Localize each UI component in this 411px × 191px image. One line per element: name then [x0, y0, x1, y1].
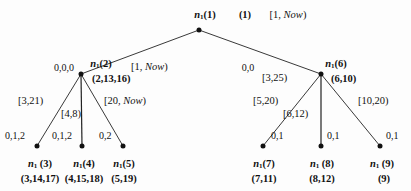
edge-interval-n4: [4,8): [61, 109, 81, 120]
edge-interval-n5: [20, Now): [104, 96, 146, 107]
node-dot-root[interactable]: [197, 28, 202, 33]
node-label-n3: n1 (3): [28, 159, 52, 170]
edge-digits-n4: 0,1,2: [52, 131, 72, 141]
node-label-n6: n1(6): [325, 59, 347, 70]
node-tuple-n2: (2,13,16): [92, 74, 131, 85]
node-dot-n8[interactable]: [319, 144, 324, 149]
edge-digits-n7: 0,1: [271, 131, 284, 141]
node-tuple-n9: (9): [378, 174, 390, 185]
node-label-n2: n1(2): [90, 59, 112, 70]
node-dot-n6[interactable]: [319, 72, 324, 77]
node-dot-n4[interactable]: [80, 144, 85, 149]
node-label-n8: n1 (8): [310, 159, 334, 170]
edge-digits-n9: 0,1: [386, 131, 399, 141]
node-tuple-n4: (4,15,18): [65, 174, 104, 185]
edge-interval-root-n2: [1, Now): [131, 62, 168, 73]
node-dot-n2[interactable]: [79, 72, 84, 77]
node-label-n5: n1(5): [113, 159, 135, 170]
tree-edges: [0, 0, 411, 191]
root-node-label: n1(1): [194, 10, 216, 21]
edge-digits-n3: 0,1,2: [5, 131, 25, 141]
node-tuple-n3: (3,14,17): [21, 174, 60, 185]
tree-diagram-figure: n1(1) (1) [1, Now) 0,0,0 n1(2) [1, Now) …: [0, 0, 411, 191]
edge-interval-n3: [3,21): [18, 96, 43, 107]
node-dot-n5[interactable]: [121, 144, 126, 149]
node-tuple-n8: (8,12): [309, 174, 334, 185]
edge-interval-n7: [5,20): [253, 96, 278, 107]
node-dot-n7[interactable]: [261, 144, 266, 149]
node-label-n7: n1(7): [253, 159, 275, 170]
node-label-n4: n1(4): [73, 159, 95, 170]
edge-interval-n8: [6,12): [283, 109, 308, 120]
root-tuple-label: (1): [239, 10, 251, 21]
edge-digits-n8: 0,1: [327, 131, 340, 141]
node-label-n9: n1 (9): [370, 159, 394, 170]
node-tuple-n5: (5,19): [111, 174, 136, 185]
edge-digits-n2: 0,0,0: [54, 63, 74, 73]
node-dot-n3[interactable]: [35, 144, 40, 149]
edge-digits-n6: 0,0: [242, 63, 255, 73]
node-tuple-n7: (7,11): [252, 174, 277, 185]
node-dot-n9[interactable]: [378, 144, 383, 149]
root-interval-label: [1, Now): [270, 10, 307, 21]
edge-interval-root-n6: [3,25): [262, 73, 287, 84]
node-tuple-n6: (6,10): [331, 74, 356, 85]
edge-digits-n5: 0,2: [99, 131, 112, 141]
edge-interval-n9: [10,20): [358, 96, 389, 107]
